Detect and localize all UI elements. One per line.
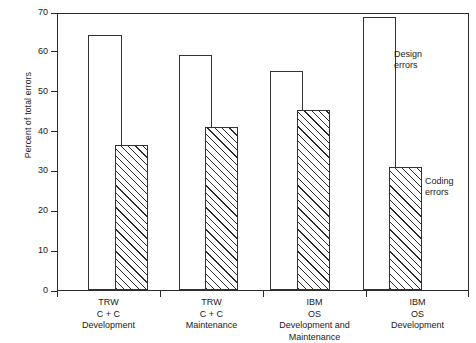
y-tick-label: 20 [38, 205, 48, 216]
x-axis-label-line: Maintenance [263, 332, 366, 343]
bar-coding-errors-trw-cc-development [115, 145, 148, 290]
x-axis-label-line: Development and [263, 320, 366, 332]
x-axis-label-line: Development [57, 320, 160, 332]
annotation-design-errors-line-1: Design [394, 49, 422, 60]
x-axis-label-line: C + C [57, 309, 160, 321]
bar-coding-errors-trw-cc-maintenance [205, 127, 238, 290]
y-tick-label: 50 [38, 86, 48, 97]
y-tick-label: 10 [38, 245, 48, 256]
annotation-coding-errors: Coding errors [425, 176, 454, 198]
x-axis-label-group-1: TRW C + C Development [57, 297, 160, 332]
x-axis-label-group-2: TRW C + C Maintenance [160, 297, 263, 332]
x-axis-label-line: Development [366, 320, 469, 332]
bar-coding-errors-ibm-os-development [389, 167, 422, 290]
x-axis-label-group-4: IBM OS Development [366, 297, 469, 332]
y-tick-label: 60 [38, 46, 48, 57]
annotation-design-errors-line-2: errors [394, 60, 422, 71]
annotation-coding-errors-line-1: Coding [425, 176, 454, 187]
y-tick-label: 70 [38, 7, 48, 18]
x-axis-label-line: TRW [160, 297, 263, 309]
annotation-design-errors: Design errors [394, 49, 422, 71]
x-axis-label-line: TRW [57, 297, 160, 309]
x-axis-label-line: OS [263, 309, 366, 321]
x-axis-label-line: C + C [160, 309, 263, 321]
y-tick-label: 0 [43, 285, 48, 296]
annotation-coding-errors-line-2: errors [425, 187, 454, 198]
y-axis-title: Percent of total errors [23, 35, 33, 195]
bar-coding-errors-ibm-os-development-and-maintenance [297, 110, 330, 290]
x-axis-label-line: IBM [263, 297, 366, 309]
x-axis-label-group-3: IBM OS Development and Maintenance [263, 297, 366, 343]
plot-area: Design errors Coding errors [57, 13, 469, 291]
x-axis-label-line: OS [366, 309, 469, 321]
x-axis-label-line: Maintenance [160, 320, 263, 332]
x-axis-label-line: IBM [366, 297, 469, 309]
y-tick-label: 30 [38, 165, 48, 176]
y-tick-label: 40 [38, 126, 48, 137]
